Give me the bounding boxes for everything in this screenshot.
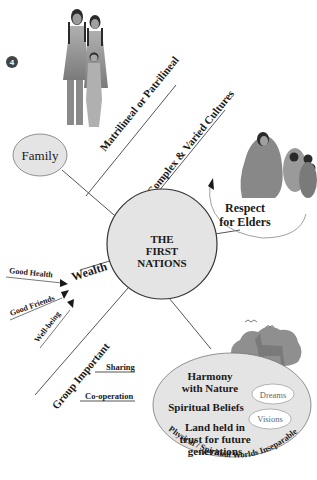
spiritual-beliefs-label: Spiritual Beliefs <box>168 401 244 413</box>
first-nations-diagram: 4 Family Matrilin <box>0 0 317 480</box>
family-illustration-icon <box>63 9 108 127</box>
badge-number: 4 <box>10 58 15 67</box>
center-node: THE FIRST NATIONS <box>107 189 217 299</box>
arrow-icon <box>67 299 74 308</box>
good-friends-label: Good Friends <box>9 293 56 318</box>
harmony-line2: with Nature <box>182 382 238 394</box>
dreams-label: Dreams <box>260 390 286 400</box>
cooperation-label: Co-operation <box>85 391 133 401</box>
arrow-icon <box>208 178 214 190</box>
nature-node: Harmony with Nature Spiritual Beliefs La… <box>153 353 311 460</box>
step-badge: 4 <box>6 56 18 68</box>
wealth-items: Good Health Good Friends Well-being <box>6 266 74 348</box>
elders-illustration-icon <box>241 132 317 198</box>
arrow-icon <box>60 279 68 287</box>
family-node: Family <box>13 134 67 176</box>
center-line3: NATIONS <box>137 257 186 269</box>
respect-line1: Respect <box>225 201 265 215</box>
family-label: Family <box>22 148 59 163</box>
visions-label: Visions <box>257 414 282 424</box>
respect-line2: for Elders <box>219 215 271 229</box>
wealth-branch-label: Wealth <box>70 259 110 284</box>
arrow-icon <box>61 290 69 299</box>
good-health-label: Good Health <box>9 266 54 280</box>
complex-cultures-branch-label: Complex & Varied Cultures <box>144 87 237 197</box>
matrilineal-branch-label: Matrilineal or Patrilineal <box>97 54 181 154</box>
center-line2: FIRST <box>146 245 179 257</box>
center-line1: THE <box>150 233 173 245</box>
land-line1: Land held in <box>185 421 245 433</box>
sharing-label: Sharing <box>106 362 136 372</box>
harmony-line1: Harmony <box>187 370 233 382</box>
